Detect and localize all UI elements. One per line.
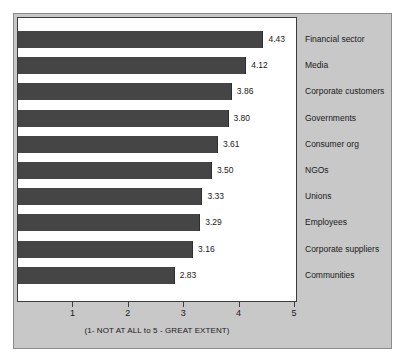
x-axis-tick-label: 5 — [291, 308, 296, 319]
bar — [18, 83, 232, 100]
category-label: Corporate customers — [305, 85, 384, 97]
category-label: Corporate suppliers — [305, 243, 379, 255]
chart-figure: 4.434.123.863.803.613.503.333.293.162.83… — [13, 13, 392, 349]
bar-value-label: 3.50 — [217, 164, 234, 177]
category-label: Communities — [305, 269, 355, 281]
bar-row: 2.83 — [18, 267, 296, 284]
x-axis-tick-label: 3 — [181, 308, 186, 319]
bar — [18, 162, 212, 179]
bar-row: 3.33 — [18, 188, 296, 205]
x-axis-tick-label: 1 — [70, 308, 75, 319]
category-label-column: Financial sectorMediaCorporate customers… — [299, 17, 390, 302]
bar-row: 3.86 — [18, 83, 296, 100]
category-label: Employees — [305, 216, 347, 228]
bar-value-label: 3.33 — [207, 190, 224, 203]
category-label: Unions — [305, 190, 331, 202]
bar-value-label: 4.12 — [251, 59, 268, 72]
bar-value-label: 3.86 — [237, 85, 254, 98]
bar — [18, 188, 202, 205]
bar — [18, 31, 263, 48]
bar-row: 3.50 — [18, 162, 296, 179]
x-axis-tick — [72, 302, 73, 307]
category-label: NGOs — [305, 164, 329, 176]
x-axis-tick-label: 2 — [125, 308, 130, 319]
bar-row: 3.61 — [18, 136, 296, 153]
bar — [18, 267, 175, 284]
category-label: Governments — [305, 112, 356, 124]
bar-value-label: 3.61 — [223, 138, 240, 151]
bar-value-label: 4.43 — [268, 33, 285, 46]
bar-value-label: 3.29 — [205, 216, 222, 229]
category-label: Media — [305, 59, 328, 71]
category-label: Consumer org — [305, 138, 359, 150]
x-axis: (1- NOT AT ALL to 5 - GREAT EXTENT) 1234… — [17, 302, 297, 348]
x-axis-tick — [128, 302, 129, 307]
bar-row: 4.43 — [18, 31, 296, 48]
bar — [18, 110, 229, 127]
bar — [18, 136, 218, 153]
x-axis-tick-label: 4 — [236, 308, 241, 319]
category-label: Financial sector — [305, 33, 365, 45]
bar — [18, 241, 193, 258]
x-axis-tick — [239, 302, 240, 307]
x-axis-caption: (1- NOT AT ALL to 5 - GREAT EXTENT) — [17, 326, 297, 335]
bar-row: 3.29 — [18, 214, 296, 231]
bar — [18, 214, 200, 231]
plot-area: 4.434.123.863.803.613.503.333.293.162.83 — [17, 17, 297, 302]
x-axis-tick — [294, 302, 295, 307]
bar-row: 3.80 — [18, 110, 296, 127]
bar — [18, 57, 246, 74]
bar-row: 3.16 — [18, 241, 296, 258]
bar-value-label: 3.80 — [234, 112, 251, 125]
bar-value-label: 2.83 — [180, 269, 197, 282]
bars-layer: 4.434.123.863.803.613.503.333.293.162.83 — [18, 18, 296, 301]
x-axis-tick — [183, 302, 184, 307]
bar-row: 4.12 — [18, 57, 296, 74]
bar-value-label: 3.16 — [198, 243, 215, 256]
